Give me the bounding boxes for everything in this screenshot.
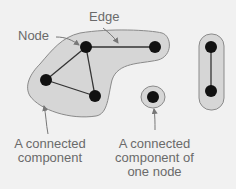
node-label: Node <box>18 29 49 43</box>
single-node-component-label: A connected component of one node <box>112 137 197 179</box>
component-label: A connected component <box>10 137 90 165</box>
single-node-pointer-arrow <box>154 109 155 130</box>
edge-label: Edge <box>89 10 119 24</box>
component-pointer-arrow <box>44 106 48 134</box>
